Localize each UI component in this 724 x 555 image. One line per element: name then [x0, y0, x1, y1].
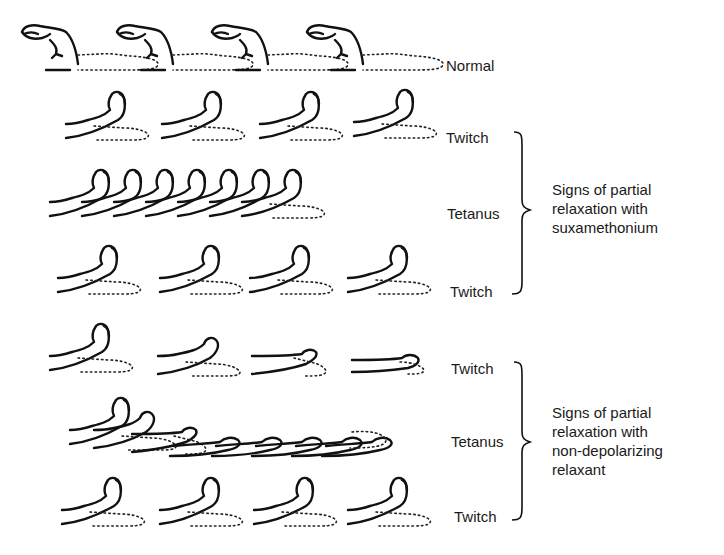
row-ndr-tetanus-hands: [70, 398, 392, 456]
row-ndr-twitch-1-hands: [50, 324, 424, 376]
row-sux-tetanus-hands: [50, 170, 324, 218]
annotation-line: relaxant: [552, 460, 663, 479]
brace-non-depolarizing: [512, 362, 530, 520]
annotation-line: relaxation with: [552, 422, 663, 441]
row-ndr-twitch-2-hands: [62, 478, 430, 526]
label-normal: Normal: [446, 58, 494, 73]
label-sux-twitch-1: Twitch: [446, 130, 489, 145]
row-normal-hands: [22, 25, 443, 70]
label-ndr-twitch-2: Twitch: [454, 509, 497, 524]
annotation-line: relaxation with: [552, 199, 658, 218]
row-sux-twitch-1-hands: [66, 90, 436, 140]
annotation-suxamethonium: Signs of partial relaxation with suxamet…: [552, 180, 658, 237]
brace-suxamethonium: [512, 132, 530, 294]
annotation-non-depolarizing: Signs of partial relaxation with non-dep…: [552, 403, 663, 479]
label-sux-tetanus: Tetanus: [447, 206, 500, 221]
label-sux-twitch-2: Twitch: [450, 284, 493, 299]
row-sux-twitch-2-hands: [58, 246, 430, 294]
annotation-line: Signs of partial: [552, 180, 658, 199]
annotation-line: non-depolarizing: [552, 441, 663, 460]
annotation-line: Signs of partial: [552, 403, 663, 422]
label-ndr-twitch-1: Twitch: [451, 361, 494, 376]
label-ndr-tetanus: Tetanus: [451, 434, 504, 449]
annotation-line: suxamethonium: [552, 218, 658, 237]
